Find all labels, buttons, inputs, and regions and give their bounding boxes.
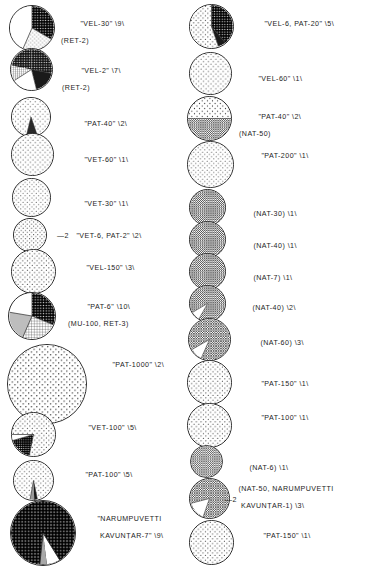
pie-label-right-1: "VEL-6, PAT-20" \5\ bbox=[245, 11, 334, 37]
pie-label-right-9-line1: (NAT-60) \3\ bbox=[260, 339, 304, 347]
pie-chart-left-2 bbox=[10, 48, 53, 91]
pie-label-left-2: "VEL-2" \7\ (RET-2) bbox=[62, 58, 121, 110]
pie-label-left-3-line1: "PAT-40" \2\ bbox=[84, 120, 127, 128]
pie-label-left-5: "VET-30" \1\ bbox=[65, 191, 128, 217]
pie-label-right-12-line1: (NAT-6) \1\ bbox=[249, 464, 288, 472]
pie-chart-left-11 bbox=[13, 460, 54, 501]
pie-label-right-3-line1: "PAT-40" \2\ bbox=[258, 113, 301, 121]
pie-label-left-8-line2: (MU-100, RET-3) bbox=[68, 320, 130, 329]
pie-label-left-9: "PAT-1000" \2\ bbox=[93, 352, 164, 378]
pie-label-right-5: (NAT-30) \1\ bbox=[234, 201, 297, 227]
pie-label-left-11-line1: "PAT-100" \5\ bbox=[85, 471, 132, 479]
pie-chart-right-10 bbox=[187, 360, 232, 405]
pie-label-left-12-line2: KAVUNṬAR-7" \9\ bbox=[78, 532, 164, 541]
pie-label-left-7-line1: "VEL-150" \3\ bbox=[86, 264, 134, 272]
pie-label-left-2-line2: (RET-2) bbox=[62, 84, 121, 93]
pie-chart-left-3 bbox=[11, 97, 51, 137]
pie-label-right-3-line2: (NAT-50) bbox=[239, 130, 301, 139]
left-column: "VEL-30" \9\ (RET-2) bbox=[0, 0, 185, 570]
pie-label-left-1: "VEL-30" \9\ (RET-2) bbox=[61, 11, 124, 63]
pie-chart-right-11 bbox=[187, 403, 232, 448]
pie-label-left-10: "VET-100" \5\ bbox=[69, 415, 137, 441]
pie-label-left-1-line2: (RET-2) bbox=[61, 37, 124, 46]
pie-label-left-3: "PAT-40" \2\ bbox=[65, 111, 127, 137]
pie-label-right-11-line1: "PAT-100" \1\ bbox=[261, 414, 308, 422]
pie-chart-left-4 bbox=[11, 133, 54, 176]
pie-label-left-4-line1: "VET-60" \1\ bbox=[84, 156, 128, 164]
pie-label-left-10-line1: "VET-100" \5\ bbox=[88, 424, 136, 432]
pie-label-right-4-line1: "PAT-200" \1\ bbox=[261, 152, 308, 160]
pie-label-left-6: "VET-6, PAT-2" \2\ bbox=[57, 223, 142, 249]
pie-label-left-1-line1: "VEL-30" \9\ bbox=[80, 20, 124, 28]
pie-chart-left-7 bbox=[11, 249, 56, 294]
pie-chart-left-1 bbox=[9, 5, 55, 51]
pie-label-right-4: "PAT-200" \1\ bbox=[242, 143, 309, 169]
pie-label-right-1-line1: "VEL-6, PAT-20" \5\ bbox=[264, 20, 334, 28]
pie-sublabel-right-13: —2 bbox=[225, 496, 237, 505]
pie-label-right-9: (NAT-60) \3\ bbox=[241, 330, 304, 356]
pie-chart-right-9 bbox=[188, 318, 231, 361]
pie-chart-left-5 bbox=[12, 178, 51, 217]
pie-chart-right-4 bbox=[187, 141, 234, 188]
pie-label-left-2-line1: "VEL-2" \7\ bbox=[81, 67, 121, 75]
pie-chart-left-10 bbox=[11, 412, 56, 457]
pie-label-right-8: (NAT-40) \2\ bbox=[233, 295, 296, 321]
pie-chart-right-2 bbox=[189, 52, 232, 95]
pie-label-left-12: "NARUMPUVETTI KAVUNṬAR-7" \9\ bbox=[78, 506, 164, 558]
pie-label-right-5-line1: (NAT-30) \1\ bbox=[253, 210, 297, 218]
pie-label-left-4: "VET-60" \1\ bbox=[65, 147, 128, 173]
pie-label-left-11: "PAT-100" \5\ bbox=[66, 462, 133, 488]
pie-label-right-8-line1: (NAT-40) \2\ bbox=[252, 304, 296, 312]
pie-label-left-5-line1: "VET-30" \1\ bbox=[84, 200, 128, 208]
pie-label-left-8: "PAT-6" \10\ (MU-100, RET-3) bbox=[68, 294, 130, 346]
pie-label-right-14-line1: "PAT-150" \1\ bbox=[263, 532, 310, 540]
pie-chart-right-8 bbox=[189, 285, 226, 322]
pie-label-right-10: "PAT-150" \1\ bbox=[242, 371, 309, 397]
pie-label-left-12-line1: "NARUMPUVETTI bbox=[97, 515, 161, 523]
pie-label-left-7: "VEL-150" \3\ bbox=[67, 255, 135, 281]
pie-label-right-2: "VEL-60" \1\ bbox=[239, 66, 302, 92]
pie-label-right-7-line1: (NAT-7) \1\ bbox=[253, 274, 292, 282]
pie-label-right-6-line1: (NAT-40) \1\ bbox=[253, 242, 297, 250]
pie-sublabel-left-6: —2 bbox=[57, 232, 69, 241]
pie-label-left-8-line1: "PAT-6" \10\ bbox=[87, 303, 130, 311]
pie-chart-left-6 bbox=[13, 218, 47, 252]
right-column: "VEL-6, PAT-20" \5\ bbox=[185, 0, 369, 570]
figure-plate: "VEL-30" \9\ (RET-2) bbox=[0, 0, 369, 570]
pie-label-right-6: (NAT-40) \1\ bbox=[234, 233, 297, 259]
pie-chart-right-14 bbox=[189, 520, 234, 565]
pie-chart-right-12 bbox=[190, 445, 223, 478]
pie-label-left-9-line1: "PAT-1000" \2\ bbox=[112, 361, 164, 369]
pie-chart-left-8 bbox=[8, 292, 56, 340]
pie-chart-left-12 bbox=[10, 500, 76, 566]
pie-label-right-11: "PAT-100" \1\ bbox=[242, 405, 309, 431]
pie-label-right-14: "PAT-150" \1\ bbox=[244, 523, 311, 549]
pie-label-right-13-line1: (NAT-50, NARUMPUVETTI bbox=[238, 485, 333, 493]
pie-label-right-2-line1: "VEL-60" \1\ bbox=[258, 75, 302, 83]
pie-label-left-6-line1: "VET-6, PAT-2" \2\ bbox=[76, 232, 141, 240]
pie-chart-right-3 bbox=[187, 96, 232, 141]
pie-chart-right-1 bbox=[189, 4, 234, 49]
pie-label-right-7: (NAT-7) \1\ bbox=[234, 265, 292, 291]
pie-label-right-10-line1: "PAT-150" \1\ bbox=[261, 380, 308, 388]
